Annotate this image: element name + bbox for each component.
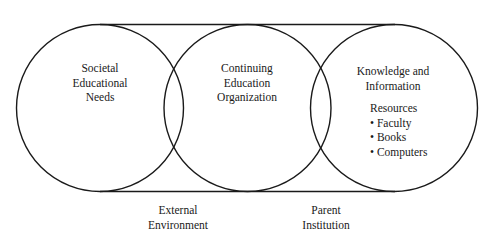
continuing-education-organization-label: Continuing Education Organization <box>197 61 297 105</box>
label-line: Organization <box>197 90 297 105</box>
label-line: Environment <box>133 218 223 232</box>
circle-continuing-education <box>164 25 331 192</box>
external-environment-label: External Environment <box>133 203 223 231</box>
label-line: Knowledge and <box>343 64 443 79</box>
label-line: Parent <box>281 203 371 218</box>
label-line: Education <box>197 76 297 91</box>
parent-institution-label: Parent Institution <box>281 203 371 231</box>
label-line: Information <box>343 79 443 94</box>
label-line: Needs <box>50 90 150 105</box>
circle-societal-needs <box>17 25 184 192</box>
label-line: Societal <box>50 61 150 76</box>
societal-educational-needs-label: Societal Educational Needs <box>50 61 150 105</box>
knowledge-information-label: Knowledge and Information <box>343 64 443 93</box>
label-line: Continuing <box>197 61 297 76</box>
label-line: External <box>133 203 223 218</box>
label-line: Educational <box>50 76 150 91</box>
resource-item-books: • Books <box>369 130 427 145</box>
resources-heading: Resources <box>369 101 427 116</box>
resource-item-computers: • Computers <box>369 145 427 160</box>
resource-item-faculty: • Faculty <box>369 116 427 131</box>
resources-list: Resources • Faculty • Books • Computers <box>369 101 427 159</box>
label-line: Institution <box>281 218 371 232</box>
